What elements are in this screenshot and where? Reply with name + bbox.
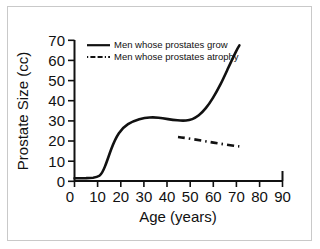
x-axis-tick-labels: 0 10 20 30 40 50 60 70 80 90 — [66, 188, 291, 205]
chart-legend: Men whose prostates grow Men whose prost… — [87, 39, 239, 62]
x-tick-label-40: 40 — [159, 188, 176, 205]
y-tick-label-60: 60 — [48, 52, 65, 69]
y-axis-title: Prostate Size (cc) — [14, 52, 31, 170]
prostate-size-line-chart: 70 60 50 40 30 20 10 0 — [0, 0, 320, 249]
x-axis-title: Age (years) — [139, 208, 217, 225]
legend-label-grow: Men whose prostates grow — [114, 39, 228, 50]
x-tick-label-10: 10 — [89, 188, 106, 205]
y-tick-label-70: 70 — [48, 32, 65, 49]
x-tick-label-70: 70 — [228, 188, 245, 205]
y-tick-label-0: 0 — [57, 173, 65, 190]
series-line-atrophy — [178, 137, 240, 146]
y-tick-label-20: 20 — [48, 132, 65, 149]
x-tick-label-50: 50 — [182, 188, 199, 205]
y-tick-label-30: 30 — [48, 112, 65, 129]
y-tick-label-50: 50 — [48, 72, 65, 89]
screenshot-root: 70 60 50 40 30 20 10 0 — [0, 0, 320, 249]
x-tick-label-80: 80 — [251, 188, 268, 205]
x-tick-label-20: 20 — [112, 188, 129, 205]
y-tick-label-10: 10 — [48, 153, 65, 170]
x-tick-label-60: 60 — [205, 188, 222, 205]
x-tick-label-0: 0 — [66, 188, 74, 205]
legend-label-atrophy: Men whose prostates atrophy — [114, 51, 239, 62]
x-tick-label-90: 90 — [274, 188, 291, 205]
y-axis-tick-labels: 70 60 50 40 30 20 10 0 — [48, 32, 65, 190]
x-tick-label-30: 30 — [136, 188, 153, 205]
y-tick-label-40: 40 — [48, 92, 65, 109]
chart-canvas: 70 60 50 40 30 20 10 0 — [0, 0, 320, 249]
series-line-grow — [75, 45, 240, 178]
